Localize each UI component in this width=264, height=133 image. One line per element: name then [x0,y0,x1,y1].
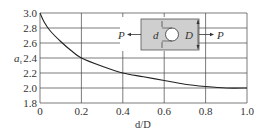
y-tick-label: 2.8 [23,22,37,34]
load-left-label: P [117,29,125,41]
x-tick-label: 1.0 [240,105,254,117]
x-tick-label: 0.8 [199,105,213,117]
y-tick-label: 2.4 [23,52,37,64]
y-tick-label: 2.6 [23,37,37,49]
y-axis-ticks: 3.02.82.62.42.22.01.8 [23,7,37,109]
inset-diagram: d D P P [117,17,224,51]
hole-diameter-label: d [153,29,159,41]
x-tick-label: 0.2 [75,105,89,117]
chart: 3.02.82.62.42.22.01.8 00.20.40.60.81.0 a… [0,0,264,133]
x-axis-ticks: 00.20.40.60.81.0 [37,105,254,117]
y-tick-label: 1.8 [23,97,37,109]
x-axis-label: d/D [135,119,151,130]
y-tick-label: 2.0 [23,82,37,94]
y-tick-label: 3.0 [23,7,37,19]
load-right-label: P [216,29,224,41]
width-label: D [184,29,193,41]
y-axis-label-subscript: t [20,58,22,66]
x-tick-label: 0.6 [157,105,171,117]
x-tick-label: 0.4 [116,105,130,117]
hole [166,28,179,41]
y-tick-label: 2.2 [23,67,37,79]
x-tick-label: 0 [37,105,43,117]
